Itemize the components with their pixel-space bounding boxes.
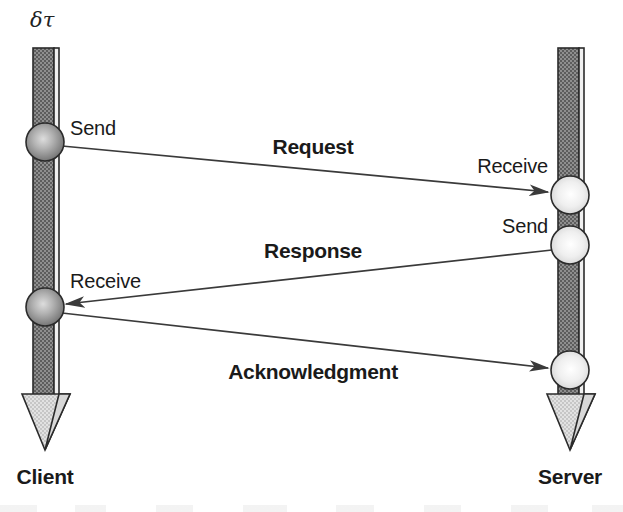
event-label-client-send: Send <box>70 118 116 138</box>
event-node-client-send <box>26 123 64 161</box>
event-label-client-receive: Receive <box>70 271 141 291</box>
message-label-acknowledgment: Acknowledgment <box>228 361 398 382</box>
sequence-diagram: δτ Send Receive Send Receive Request Res… <box>0 0 623 512</box>
event-node-client-receive <box>26 288 64 326</box>
delta-tau-label: δτ <box>30 10 54 31</box>
lifeline-label-client: Client <box>16 466 73 487</box>
event-label-server-receive-request: Receive <box>477 156 548 176</box>
lifeline-client <box>22 48 70 450</box>
event-label-server-send: Send <box>502 216 548 236</box>
event-node-server-receive-ack <box>551 351 589 389</box>
message-label-response: Response <box>264 240 362 261</box>
lifeline-label-server: Server <box>538 466 602 487</box>
message-label-request: Request <box>273 136 354 157</box>
event-node-server-receive-request <box>551 176 589 214</box>
page-bleed-artifact <box>0 505 623 512</box>
event-node-server-send <box>551 226 589 264</box>
